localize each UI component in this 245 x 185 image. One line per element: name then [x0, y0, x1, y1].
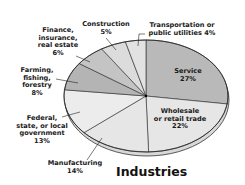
slice-label: Transportation orpublic utilities 4%	[149, 21, 216, 37]
slice-label: Finance,insurance,real estate6%	[38, 26, 79, 57]
slice-label: Federal,state, or localgovernment13%	[16, 114, 67, 145]
pie-center	[145, 95, 147, 97]
slice-label: Construction5%	[82, 20, 130, 36]
industries-pie-chart: Service27%Wholesaleor retail trade22%Man…	[0, 0, 245, 185]
chart-title: Industries	[116, 164, 187, 179]
slice-label: Manufacturing14%	[48, 159, 103, 175]
pie-slices	[64, 40, 228, 152]
slice-label: Farming,fishing,forestry8%	[21, 66, 54, 97]
